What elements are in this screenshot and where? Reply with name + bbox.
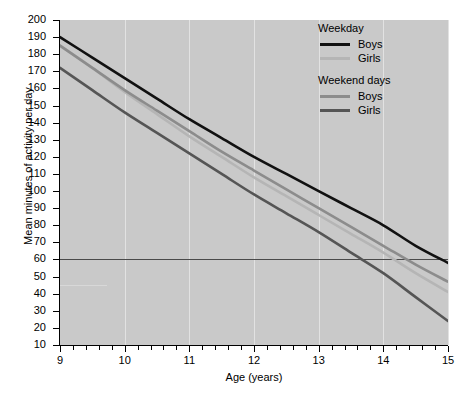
y-tick-80 <box>53 225 59 226</box>
y-tick-140 <box>53 123 59 124</box>
y-tick-120 <box>53 157 59 158</box>
x-tick-12.8 <box>306 346 307 350</box>
y-tick-30 <box>53 311 59 312</box>
y-tick-180 <box>53 54 59 55</box>
x-tick-label-14: 14 <box>363 354 403 366</box>
y-tick-label-30: 30 <box>0 305 46 316</box>
x-tick-14.2 <box>396 346 397 350</box>
x-tick-9 <box>60 346 61 352</box>
x-tick-label-10: 10 <box>105 354 145 366</box>
x-tick-14.6 <box>422 346 423 350</box>
x-tick-label-11: 11 <box>169 354 209 366</box>
x-tick-13 <box>319 346 320 352</box>
y-tick-90 <box>53 208 59 209</box>
gridline-x-15 <box>448 20 449 345</box>
x-tick-10.6 <box>163 346 164 350</box>
x-tick-label-15: 15 <box>428 354 466 366</box>
y-tick-label-200: 200 <box>0 14 46 25</box>
x-tick-label-13: 13 <box>299 354 339 366</box>
x-tick-11.6 <box>228 346 229 350</box>
y-axis-line <box>59 20 60 346</box>
x-tick-10.8 <box>176 346 177 350</box>
x-tick-13.8 <box>370 346 371 350</box>
y-tick-label-190: 190 <box>0 31 46 42</box>
x-tick-11.8 <box>241 346 242 350</box>
x-tick-10.4 <box>151 346 152 350</box>
y-tick-170 <box>53 71 59 72</box>
y-tick-100 <box>53 191 59 192</box>
y-tick-150 <box>53 106 59 107</box>
x-tick-10.2 <box>138 346 139 350</box>
x-tick-9.8 <box>112 346 113 350</box>
x-tick-label-12: 12 <box>234 354 274 366</box>
x-axis-title: Age (years) <box>60 371 448 383</box>
legend-label-weekday-girls: Girls <box>358 52 381 65</box>
y-tick-200 <box>53 20 59 21</box>
y-tick-110 <box>53 174 59 175</box>
x-tick-12 <box>254 346 255 352</box>
legend-item-weekend-boys[interactable]: Boys <box>320 89 391 103</box>
y-tick-20 <box>53 328 59 329</box>
x-tick-9.6 <box>99 346 100 350</box>
x-tick-9.4 <box>86 346 87 350</box>
legend-label-weekday-boys: Boys <box>358 38 382 51</box>
legend-group-title-weekday: Weekday <box>318 22 391 35</box>
y-tick-label-20: 20 <box>0 322 46 333</box>
legend-item-weekday-girls[interactable]: Girls <box>320 51 391 65</box>
x-tick-12.6 <box>293 346 294 350</box>
x-tick-11.4 <box>215 346 216 350</box>
x-tick-12.2 <box>267 346 268 350</box>
y-tick-70 <box>53 242 59 243</box>
x-tick-13.4 <box>345 346 346 350</box>
x-tick-11 <box>189 346 190 352</box>
legend-swatch-weekday-boys <box>320 43 350 46</box>
x-tick-14.4 <box>409 346 410 350</box>
x-tick-14.8 <box>435 346 436 350</box>
chart-legend: Weekday Boys Girls Weekend days Boys Gir… <box>318 22 391 117</box>
x-tick-10 <box>125 346 126 352</box>
x-tick-label-9: 9 <box>40 354 80 366</box>
y-tick-160 <box>53 88 59 89</box>
legend-swatch-weekday-girls <box>320 57 350 60</box>
legend-item-weekend-girls[interactable]: Girls <box>320 103 391 117</box>
y-tick-50 <box>53 277 59 278</box>
legend-item-weekday-boys[interactable]: Boys <box>320 37 391 51</box>
x-tick-15 <box>448 346 449 352</box>
y-tick-60 <box>53 259 59 260</box>
legend-label-weekend-girls: Girls <box>358 104 381 117</box>
y-tick-190 <box>53 37 59 38</box>
y-tick-label-10: 10 <box>0 339 46 350</box>
y-tick-10 <box>53 345 59 346</box>
x-tick-14 <box>383 346 384 352</box>
legend-swatch-weekend-boys <box>320 95 350 98</box>
y-tick-label-40: 40 <box>0 288 46 299</box>
x-tick-13.6 <box>357 346 358 350</box>
x-tick-9.2 <box>73 346 74 350</box>
x-tick-12.4 <box>280 346 281 350</box>
chart-figure: 1020304050607080901001101201301401501601… <box>0 0 466 393</box>
x-tick-13.2 <box>332 346 333 350</box>
legend-label-weekend-boys: Boys <box>358 90 382 103</box>
legend-swatch-weekend-girls <box>320 109 350 112</box>
x-tick-11.2 <box>202 346 203 350</box>
legend-group-title-weekend: Weekend days <box>318 74 391 87</box>
y-tick-130 <box>53 140 59 141</box>
y-tick-40 <box>53 294 59 295</box>
y-axis-title: Mean minutes of activity per day <box>22 46 34 286</box>
